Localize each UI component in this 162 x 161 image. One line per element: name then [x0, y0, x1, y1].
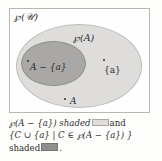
label-set-a: A	[70, 97, 77, 106]
caption-line-3-period: .	[59, 143, 62, 153]
label-power-set-of-a: ℘(A)	[73, 33, 94, 43]
caption-line-1-conjunction: and	[110, 118, 126, 128]
caption-line-2-text: {C ∪ {a} | C ∈ ℘(A − {a}) }	[9, 130, 132, 140]
figure-caption: ℘(A − {a}) shadedand {C ∪ {a} | C ∈ ℘(A …	[9, 117, 159, 154]
point-marker-a-icon	[64, 98, 66, 100]
label-a-minus-singleton-a: A − {a}	[30, 63, 67, 72]
caption-line-1: ℘(A − {a}) shadedand	[9, 117, 159, 129]
legend-swatch-light	[92, 119, 109, 127]
legend-swatch-dark	[41, 143, 58, 151]
caption-line-1-text: ℘(A − {a}) shaded	[9, 118, 91, 128]
caption-line-3-text: shaded	[9, 143, 40, 153]
point-marker-a-minus-a-icon	[27, 60, 29, 62]
set-diagram-figure: ℘(𝒰) ℘(A) A − {a} {a} A ℘(A − {a}) shade…	[0, 0, 162, 161]
caption-line-3: shaded.	[9, 142, 159, 154]
label-singleton-a: {a}	[104, 66, 121, 75]
point-marker-singleton-a-icon	[103, 59, 105, 61]
label-power-set-of-universe: ℘(𝒰)	[14, 11, 38, 23]
caption-line-2: {C ∪ {a} | C ∈ ℘(A − {a}) }	[9, 129, 159, 141]
